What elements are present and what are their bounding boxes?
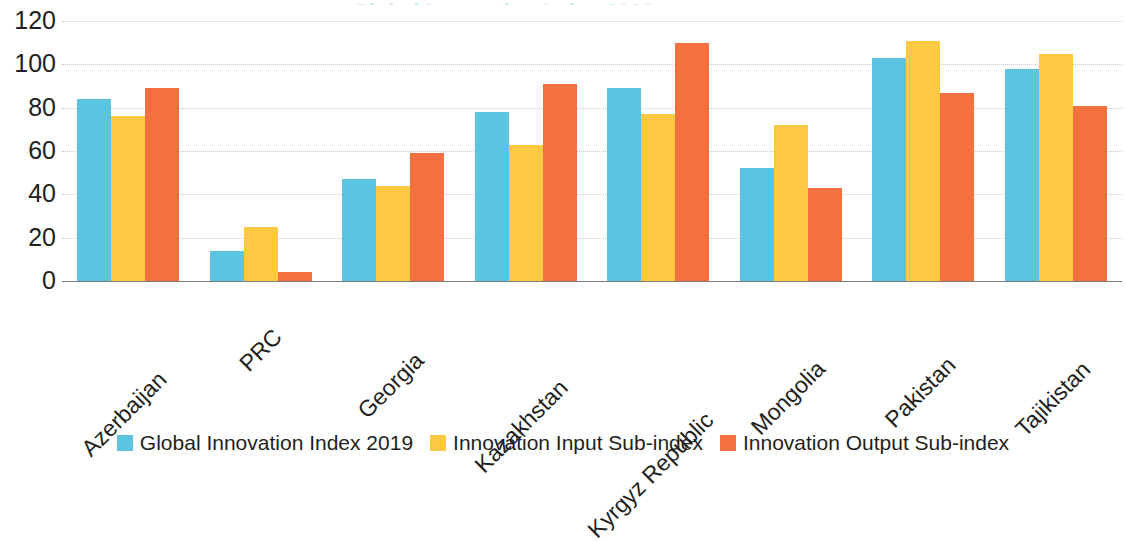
x-axis-tick-label-text: Tajikistan [1011,357,1095,441]
x-axis-tick-label-text: PRC [235,324,286,375]
x-label-cell: Kyrgyz Republic [592,284,725,404]
bar [940,93,974,282]
x-label-cell: PRC [195,284,328,404]
x-axis-labels: AzerbaijanPRCGeorgiaKazakhstanKyrgyz Rep… [62,284,1122,404]
bar [808,188,842,281]
bar [475,112,509,281]
y-tick-label: 20 [4,225,56,250]
legend-item[interactable]: Global Innovation Index 2019 [117,432,413,454]
bar-group [327,21,460,281]
legend-color-swatch [720,435,736,451]
legend-color-swatch [430,435,446,451]
bar [774,125,808,281]
bar [740,168,774,281]
bar-group [195,21,328,281]
x-axis-line [62,281,1122,282]
y-tick-label: 60 [4,138,56,163]
bar-group [592,21,725,281]
x-axis-tick-label-text: Kazakhstan [470,375,572,477]
bar [342,179,376,281]
bar [410,153,444,281]
bar [509,145,543,282]
bar [77,99,111,281]
bar [675,43,709,281]
x-label-cell: Tajikistan [990,284,1123,404]
bar-group [990,21,1123,281]
bar-group [62,21,195,281]
bar-groups [62,21,1122,281]
bar-group [460,21,593,281]
bar [111,116,145,281]
x-label-cell: Azerbaijan [62,284,195,404]
legend-label: Innovation Input Sub-index [453,432,703,454]
bar [872,58,906,281]
x-label-cell: Kazakhstan [460,284,593,404]
bar [543,84,577,281]
bar [1073,106,1107,282]
y-tick-label: 0 [4,268,56,293]
x-axis-tick-label-text: Mongolia [746,356,829,439]
bar [607,88,641,281]
y-tick-label: 80 [4,95,56,120]
x-label-cell: Mongolia [725,284,858,404]
bar [210,251,244,281]
bar [244,227,278,281]
x-axis-tick-label-text: Georgia [353,348,428,423]
bar [906,41,940,282]
legend-label: Global Innovation Index 2019 [140,432,413,454]
chart-legend: Global Innovation Index 2019Innovation I… [0,432,1126,454]
bar [278,272,312,281]
bar [376,186,410,281]
plot-area [62,21,1122,281]
chart-title-cropped: Global Innovation Index 2019 [352,0,782,5]
x-axis-tick-label: PRC [269,290,320,341]
bar [1039,54,1073,282]
bar-group [857,21,990,281]
legend-item[interactable]: Innovation Output Sub-index [720,432,1009,454]
bar [1005,69,1039,281]
legend-color-swatch [117,435,133,451]
legend-item[interactable]: Innovation Input Sub-index [430,432,703,454]
x-label-cell: Georgia [327,284,460,404]
y-axis: 120 100 80 60 40 20 0 [0,21,56,281]
x-axis-tick-label-text: Pakistan [881,352,960,431]
y-tick-label: 40 [4,181,56,206]
x-axis-tick-label: Tajikistan [1077,290,1126,374]
x-axis-tick-label-text: Kyrgyz Republic [583,408,717,542]
bar [641,114,675,281]
y-tick-label: 120 [4,8,56,33]
x-label-cell: Pakistan [857,284,990,404]
legend-label: Innovation Output Sub-index [743,432,1009,454]
y-tick-label: 100 [4,51,56,76]
bar-group [725,21,858,281]
bar [145,88,179,281]
